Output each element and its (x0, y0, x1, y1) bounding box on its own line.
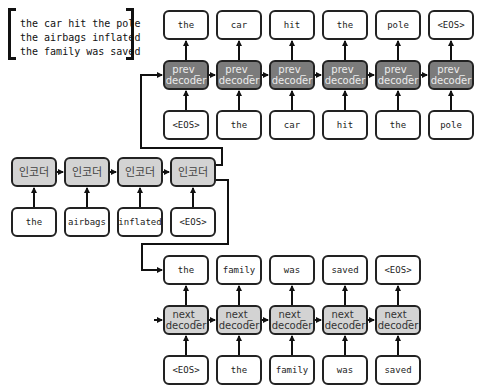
next-decoder-cell: next_ decoder (322, 305, 368, 335)
next-input-token-label: saved (384, 365, 411, 376)
prev-decoder-cell: prev_ decoder (163, 60, 209, 90)
next-output-token: <EOS> (375, 255, 421, 285)
next-output-token: was (269, 255, 315, 285)
next-decoder-cell-label: next_ decoder (325, 309, 366, 331)
prev-output-token: hit (269, 10, 315, 40)
next-decoder-cell: next_ decoder (269, 305, 315, 335)
prev-input-token: the (375, 110, 421, 140)
prev-output-token-label: hit (284, 20, 300, 31)
next-output-token: the (163, 255, 209, 285)
next-input-token: saved (375, 355, 421, 385)
next-input-token-label: the (231, 365, 247, 376)
prev-input-token-label: hit (337, 120, 353, 131)
prev-input-token-label: car (284, 120, 300, 131)
next-output-token-label: <EOS> (384, 265, 411, 276)
encoder-cell: 인코더 (64, 157, 110, 187)
prev-input-token-label: the (231, 120, 247, 131)
next-decoder-cell-label: next_ decoder (219, 309, 260, 331)
next-decoder-cell: next_ decoder (216, 305, 262, 335)
next-output-token-label: was (284, 265, 300, 276)
encoder-cell-label: 인코더 (72, 167, 102, 178)
encoder-input-token: <EOS> (170, 207, 216, 237)
prev-decoder-cell-label: prev_ decoder (431, 64, 472, 86)
next-output-token-label: the (178, 265, 194, 276)
prev-input-token: the (216, 110, 262, 140)
prev-output-token: the (322, 10, 368, 40)
next-output-token: saved (322, 255, 368, 285)
next-input-token: <EOS> (163, 355, 209, 385)
next-output-token: family (216, 255, 262, 285)
prev-output-token-label: pole (387, 20, 409, 31)
next-input-token-label: family (276, 365, 309, 376)
prev-output-token: <EOS> (428, 10, 474, 40)
encoder-input-token-label: the (26, 217, 42, 228)
prev-decoder-cell: prev_ decoder (428, 60, 474, 90)
next-input-token-label: <EOS> (172, 365, 199, 376)
encoder-input-token-label: <EOS> (179, 217, 206, 228)
prev-decoder-cell-label: prev_ decoder (219, 64, 260, 86)
next-input-token: was (322, 355, 368, 385)
encoder-cell-label: 인코더 (125, 167, 155, 178)
encoder-input-token-label: inflated (118, 217, 161, 228)
prev-output-token-label: <EOS> (437, 20, 464, 31)
prev-input-token: <EOS> (163, 110, 209, 140)
next-decoder-cell-label: next_ decoder (378, 309, 419, 331)
encoder-cell: 인코더 (170, 157, 216, 187)
prev-input-token-label: pole (440, 120, 462, 131)
encoder-cell: 인코더 (11, 157, 57, 187)
prev-output-token-label: car (231, 20, 247, 31)
next-decoder-cell: next_ decoder (375, 305, 421, 335)
prev-input-token: pole (428, 110, 474, 140)
prev-output-token: pole (375, 10, 421, 40)
prev-input-token-label: the (390, 120, 406, 131)
encoder-cell: 인코더 (117, 157, 163, 187)
next-decoder-cell-label: next_ decoder (166, 309, 207, 331)
prev-output-token: the (163, 10, 209, 40)
encoder-input-token: the (11, 207, 57, 237)
prev-decoder-cell-label: prev_ decoder (166, 64, 207, 86)
prev-input-token: car (269, 110, 315, 140)
encoder-cell-label: 인코더 (178, 167, 208, 178)
next-decoder-cell: next_ decoder (163, 305, 209, 335)
next-input-token-label: was (337, 365, 353, 376)
prev-output-token-label: the (178, 20, 194, 31)
encoder-input-token: inflated (117, 207, 163, 237)
next-input-token: family (269, 355, 315, 385)
prev-decoder-cell-label: prev_ decoder (378, 64, 419, 86)
prev-input-token: hit (322, 110, 368, 140)
encoder-input-token: airbags (64, 207, 110, 237)
encoder-cell-label: 인코더 (19, 167, 49, 178)
prev-decoder-cell: prev_ decoder (322, 60, 368, 90)
prev-decoder-cell: prev_ decoder (375, 60, 421, 90)
next-decoder-cell-label: next_ decoder (272, 309, 313, 331)
prev-decoder-cell: prev_ decoder (269, 60, 315, 90)
next-output-token-label: saved (331, 265, 358, 276)
next-input-token: the (216, 355, 262, 385)
next-output-token-label: family (223, 265, 256, 276)
prev-output-token: car (216, 10, 262, 40)
encoder-input-token-label: airbags (68, 217, 106, 228)
prev-decoder-cell-label: prev_ decoder (272, 64, 313, 86)
prev-decoder-cell: prev_ decoder (216, 60, 262, 90)
prev-input-token-label: <EOS> (172, 120, 199, 131)
prev-decoder-cell-label: prev_ decoder (325, 64, 366, 86)
prev-output-token-label: the (337, 20, 353, 31)
